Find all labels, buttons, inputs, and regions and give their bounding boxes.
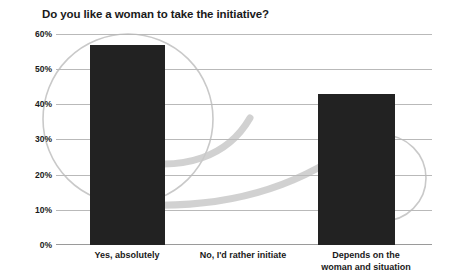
y-tick-label: 10% [6, 205, 52, 215]
x-tick-line1: Yes, absolutely [67, 249, 187, 261]
bar-chart: Do you like a woman to take the initiati… [0, 0, 454, 280]
y-tick-label: 60% [6, 29, 52, 39]
chart-title: Do you like a woman to take the initiati… [42, 8, 269, 20]
bar-yes-absolutely [90, 45, 165, 245]
y-tick-label: 0% [6, 240, 52, 250]
x-tick-line1: Depends on the [301, 249, 431, 261]
plot-area [56, 34, 432, 245]
y-tick-label: 30% [6, 134, 52, 144]
y-tick-label: 20% [6, 170, 52, 180]
x-tick-label-depends: Depends on the woman and situation [301, 249, 431, 273]
x-tick-line1: No, I'd rather initiate [178, 249, 308, 261]
x-tick-label-no-rather-initiate: No, I'd rather initiate [178, 249, 308, 261]
x-axis: Yes, absolutely No, I'd rather initiate … [56, 249, 432, 280]
x-tick-line2: woman and situation [301, 261, 431, 273]
y-axis: 60% 50% 40% 30% 20% 10% 0% [0, 34, 52, 245]
y-tick-label: 50% [6, 64, 52, 74]
x-tick-label-yes-absolutely: Yes, absolutely [67, 249, 187, 261]
gridline [56, 34, 432, 35]
y-tick-label: 40% [6, 99, 52, 109]
bar-depends-on-woman-and-situation [318, 94, 395, 245]
